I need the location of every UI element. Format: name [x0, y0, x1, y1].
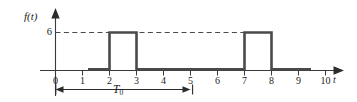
tick-label-10: 10	[317, 76, 335, 86]
amplitude-label: 6	[38, 27, 52, 38]
waveform-figure: f(t) 6 t 0 1 2 3 4 5 6 7 8 9 10 T0	[0, 0, 357, 102]
period-label: T0	[113, 84, 123, 96]
y-axis-label: f(t)	[24, 11, 37, 22]
tick-label-8: 8	[263, 76, 281, 86]
tick-label-7: 7	[236, 76, 254, 86]
period-arrowhead-right	[183, 86, 191, 93]
period-arrowhead-left	[56, 86, 64, 93]
tick-label-4: 4	[155, 76, 173, 86]
tick-label-5: 5	[182, 76, 200, 86]
tick-label-3: 3	[128, 76, 146, 86]
tick-label-0: 0	[47, 76, 65, 86]
period-dimension-arrow	[56, 85, 193, 95]
y-axis-arrowhead	[51, 8, 59, 19]
tick-label-1: 1	[74, 76, 92, 86]
waveform-plot	[0, 0, 357, 102]
tick-label-6: 6	[209, 76, 227, 86]
signal-waveform	[88, 33, 311, 70]
period-label-subscript: 0	[119, 88, 123, 97]
tick-label-9: 9	[290, 76, 308, 86]
